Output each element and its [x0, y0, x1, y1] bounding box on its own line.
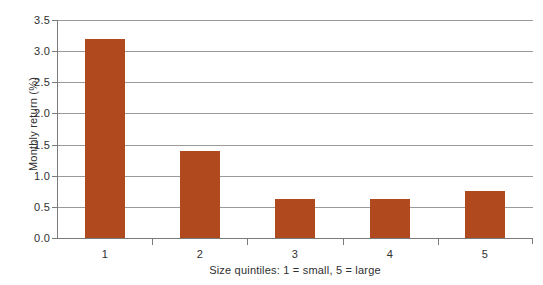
- bar: [180, 151, 220, 238]
- y-tick-label: 3.0: [14, 45, 50, 57]
- x-axis-end-tick: [532, 238, 533, 244]
- y-tick-label: 0.0: [14, 232, 50, 244]
- y-tick-label: 2.5: [14, 76, 50, 88]
- x-tick-label: 5: [455, 248, 515, 260]
- gridline: [57, 51, 533, 52]
- x-tick-label: 4: [360, 248, 420, 260]
- x-tick-label: 3: [265, 248, 325, 260]
- y-tick-label: 2.0: [14, 107, 50, 119]
- bar-chart: Monthly return (%) 0.00.51.01.52.02.53.0…: [0, 0, 543, 285]
- gridline: [57, 113, 533, 114]
- bar: [465, 191, 505, 238]
- x-tick-mark: [152, 239, 153, 245]
- y-tick-label: 1.5: [14, 139, 50, 151]
- y-tick-label: 0.5: [14, 201, 50, 213]
- gridline: [57, 82, 533, 83]
- y-axis-line: [57, 20, 58, 239]
- bar: [370, 199, 410, 238]
- gridline: [57, 176, 533, 177]
- bar: [275, 199, 315, 238]
- x-tick-mark: [343, 239, 344, 245]
- x-axis-title: Size quintiles: 1 = small, 5 = large: [57, 264, 533, 276]
- x-tick-mark: [247, 239, 248, 245]
- gridline: [57, 145, 533, 146]
- gridline: [57, 20, 533, 21]
- bar: [85, 39, 125, 238]
- x-tick-label: 2: [170, 248, 230, 260]
- x-tick-label: 1: [75, 248, 135, 260]
- y-tick-label: 1.0: [14, 170, 50, 182]
- x-tick-mark: [438, 239, 439, 245]
- x-axis-baseline: [57, 238, 533, 239]
- y-tick-label: 3.5: [14, 14, 50, 26]
